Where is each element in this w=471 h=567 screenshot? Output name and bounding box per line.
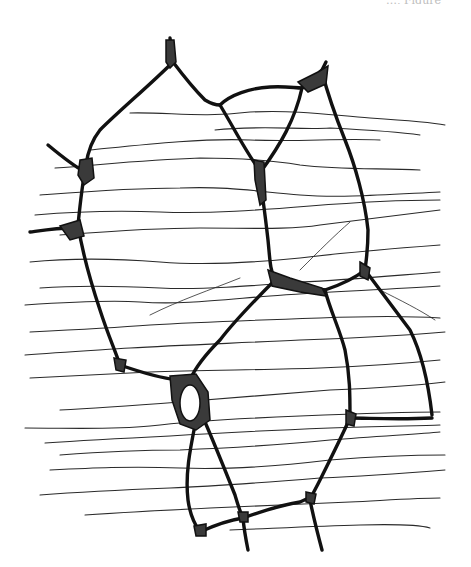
tissue-illustration bbox=[0, 0, 471, 567]
cell-walls bbox=[30, 38, 432, 550]
oval-cell-lumen bbox=[180, 385, 200, 421]
